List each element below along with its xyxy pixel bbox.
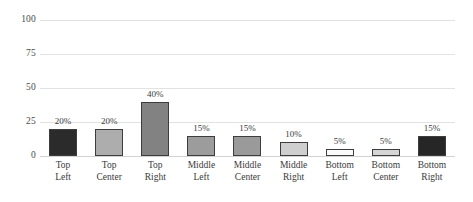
y-tick-label: 75 [2,49,36,59]
y-tick-label: 100 [2,15,36,25]
x-tick-label-line1: Middle [280,160,307,170]
bar[interactable] [187,136,215,156]
bar[interactable] [280,142,308,156]
bar-group[interactable]: 15% [224,20,270,156]
bar-group[interactable]: 15% [178,20,224,156]
x-tick-label-line1: Top [56,160,71,170]
y-axis: 0255075100 [0,0,36,202]
x-tick-label-line1: Bottom [325,160,354,170]
bar-value-label: 5% [334,137,346,146]
bar-value-label: 15% [424,124,441,133]
x-tick-label-line2: Left [178,172,224,184]
bar-value-label: 20% [55,117,72,126]
bar[interactable] [141,102,169,156]
x-tick-label-line2: Right [409,172,455,184]
x-tick-label-line2: Center [86,172,132,184]
bar[interactable] [95,129,123,156]
x-tick-label: MiddleCenter [224,160,270,183]
x-tick-label-line1: Middle [188,160,215,170]
bar-value-label: 40% [147,90,164,99]
x-tick-label: BottomLeft [317,160,363,183]
bar-value-label: 20% [101,117,118,126]
bar-group[interactable]: 20% [40,20,86,156]
x-tick-label: BottomRight [409,160,455,183]
x-tick-label-line1: Top [148,160,163,170]
bar[interactable] [49,129,77,156]
x-tick-label: MiddleRight [271,160,317,183]
bar-group[interactable]: 20% [86,20,132,156]
bar-group[interactable]: 40% [132,20,178,156]
gridline-0 [40,156,455,157]
x-axis: TopLeftTopCenterTopRightMiddleLeftMiddle… [40,160,455,200]
bar-group[interactable]: 10% [271,20,317,156]
bar-value-label: 15% [193,124,210,133]
bar-group[interactable]: 5% [317,20,363,156]
bar-group[interactable]: 15% [409,20,455,156]
bars-layer: 20%20%40%15%15%10%5%5%15% [40,20,455,156]
x-tick-label-line2: Left [317,172,363,184]
bar[interactable] [372,149,400,156]
bar[interactable] [233,136,261,156]
x-tick-label-line1: Bottom [372,160,401,170]
x-tick-label: BottomCenter [363,160,409,183]
x-tick-label-line1: Bottom [418,160,447,170]
bar-group[interactable]: 5% [363,20,409,156]
bar[interactable] [418,136,446,156]
x-tick-label: TopLeft [40,160,86,183]
y-tick-label: 0 [2,151,36,161]
bar-value-label: 10% [285,130,302,139]
bar[interactable] [326,149,354,156]
x-tick-label-line2: Center [363,172,409,184]
x-tick-label-line1: Top [102,160,117,170]
x-tick-label-line2: Right [271,172,317,184]
x-tick-label-line2: Center [224,172,270,184]
x-tick-label: TopRight [132,160,178,183]
bar-chart: 0255075100 20%20%40%15%15%10%5%5%15% Top… [0,0,473,202]
x-tick-label: MiddleLeft [178,160,224,183]
x-tick-label-line1: Middle [234,160,261,170]
y-tick-label: 50 [2,83,36,93]
bar-value-label: 15% [239,124,256,133]
y-tick-label: 25 [2,117,36,127]
bar-value-label: 5% [380,137,392,146]
x-tick-label-line2: Right [132,172,178,184]
x-tick-label: TopCenter [86,160,132,183]
x-tick-label-line2: Left [40,172,86,184]
